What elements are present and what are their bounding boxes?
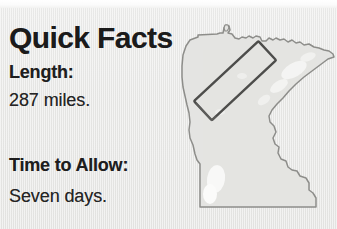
time-to-allow-label: Time to Allow: — [9, 156, 128, 174]
length-label: Length: — [9, 63, 74, 81]
northwest-angle-detail — [224, 25, 229, 31]
quick-facts-text-column: Quick Facts Length: 287 miles. Time to A… — [0, 0, 200, 229]
page-title: Quick Facts — [9, 23, 172, 53]
time-to-allow-value: Seven days. — [9, 187, 107, 205]
quick-facts-page: Quick Facts Length: 287 miles. Time to A… — [0, 0, 337, 229]
state-fill — [182, 25, 334, 207]
length-value: 287 miles. — [9, 91, 90, 109]
minnesota-map — [176, 14, 337, 214]
